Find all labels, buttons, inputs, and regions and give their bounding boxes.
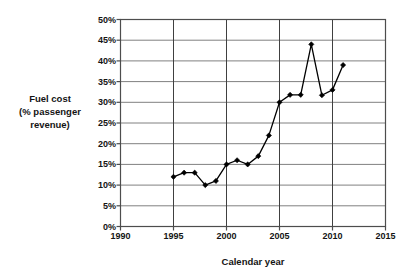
data-point-2001: [235, 158, 240, 163]
y-tick-label-5: 5%: [70, 201, 116, 211]
data-point-2009: [319, 93, 324, 98]
y-tick-label-45: 45%: [70, 35, 116, 45]
data-point-2007: [298, 92, 303, 97]
fuel-cost-line-chart: Fuel cost (% passenger revenue) 0%5%10%1…: [0, 0, 411, 278]
x-tick-label-1995: 1995: [152, 231, 196, 241]
x-axis-tick-labels: 199019952000200520102015: [0, 231, 411, 247]
data-point-1996: [182, 170, 187, 175]
data-point-2010: [330, 87, 335, 92]
x-axis-title: Calendar year: [120, 256, 386, 267]
x-tick-label-2015: 2015: [364, 231, 408, 241]
y-tick-label-30: 30%: [70, 97, 116, 107]
data-point-2004: [266, 133, 271, 138]
x-tick-label-2000: 2000: [205, 231, 249, 241]
horizontal-gridlines: [121, 20, 386, 206]
y-tick-label-0: 0%: [70, 222, 116, 232]
y-tick-label-25: 25%: [70, 118, 116, 128]
y-tick-label-10: 10%: [70, 180, 116, 190]
data-point-2011: [341, 62, 346, 67]
data-series-markers: [171, 42, 346, 188]
y-tick-label-20: 20%: [70, 139, 116, 149]
x-tick-label-2010: 2010: [311, 231, 355, 241]
x-axis-tick-marks: [121, 227, 386, 231]
data-point-1995: [171, 174, 176, 179]
y-tick-label-40: 40%: [70, 56, 116, 66]
x-tick-label-1990: 1990: [99, 231, 143, 241]
data-point-2008: [309, 42, 314, 47]
y-tick-label-15: 15%: [70, 159, 116, 169]
y-tick-label-50: 50%: [70, 15, 116, 25]
y-tick-label-35: 35%: [70, 77, 116, 87]
x-tick-label-2005: 2005: [258, 231, 302, 241]
